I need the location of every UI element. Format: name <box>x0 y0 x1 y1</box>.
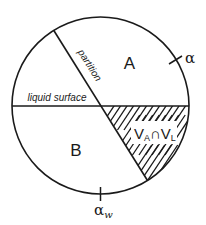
alpha-label: α <box>185 49 195 67</box>
intersection-v1: V <box>134 125 144 142</box>
intersection-cap: ∩ <box>150 125 161 142</box>
intersection-sub2: L <box>171 133 176 143</box>
region-a-label: A <box>124 54 136 73</box>
alpha-w-main: α <box>94 201 104 219</box>
venn-container-diagram: A B liquid surface partition VA∩VL α αw <box>0 0 206 225</box>
intersection-label: VA∩VL <box>134 125 176 143</box>
partition-label: partition <box>75 46 104 83</box>
alpha-w-sub: w <box>104 209 113 220</box>
intersection-v2: V <box>161 125 171 142</box>
alpha-w-label: αw <box>94 201 113 220</box>
region-b-label: B <box>70 141 81 160</box>
liquid-surface-label: liquid surface <box>28 92 87 103</box>
